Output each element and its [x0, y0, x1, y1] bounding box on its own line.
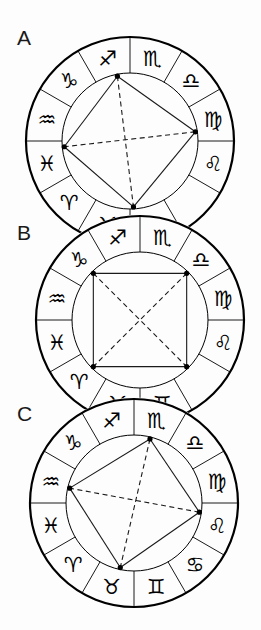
sector-divider [50, 268, 81, 286]
zodiac-glyph-libra: ♎ [191, 248, 210, 272]
aspect-line-solid [70, 488, 121, 567]
sector-divider [40, 175, 71, 193]
aspect-line-solid [117, 76, 195, 132]
outer-ring-circle [36, 216, 244, 424]
zodiac-glyph-scorpio: ♏ [147, 409, 166, 433]
aspect-line-dashed [70, 488, 200, 512]
panel-label-b: B [17, 222, 31, 243]
zodiac-glyph-libra: ♎ [185, 431, 204, 455]
aspect-line-dashed [93, 273, 186, 366]
inner-circle [62, 73, 198, 209]
aspect-vertex-point-left [67, 486, 72, 491]
zodiac-glyph-capricorn: ♑ [70, 248, 89, 272]
zodiac-wheel-c: ♍♎♏♐♑♒♓♈♉♊♋♌ [0, 0, 261, 630]
zodiac-glyph-aries: ♈ [60, 191, 79, 215]
zodiac-glyph-virgo: ♍ [204, 108, 223, 132]
zodiac-glyph-aquarius: ♒ [38, 108, 57, 132]
sector-divider [44, 451, 75, 469]
inner-circle [72, 252, 208, 388]
sector-divider [189, 89, 220, 107]
wheel-group-b: ♍♎♏♐♑♒♓♈♉♊♌ [35, 215, 246, 426]
wheel-backing-b [35, 215, 246, 426]
aspect-vertex-point-bottom [131, 204, 136, 209]
sector-divider [40, 89, 71, 107]
zodiac-glyph-pisces: ♓ [38, 152, 57, 176]
sector-divider [174, 379, 192, 410]
sector-divider [193, 451, 224, 469]
sector-divider [82, 562, 100, 593]
aspect-line-solid [64, 76, 117, 147]
zodiac-glyph-cancer: ♋ [185, 553, 204, 577]
aspect-line-dashed [117, 76, 133, 207]
sector-divider [78, 200, 96, 231]
zodiac-glyph-aquarius: ♒ [42, 470, 61, 494]
sector-divider [78, 51, 96, 82]
zodiac-wheel-b: ♍♎♏♐♑♒♓♈♉♊♌ [0, 0, 261, 630]
aspect-line-solid [70, 439, 150, 488]
inner-circle [66, 435, 202, 571]
zodiac-glyph-capricorn: ♑ [60, 69, 79, 93]
wheel-group-a: ♍♎♏♐♑♒♓♈♉♌ [25, 36, 236, 247]
aspect-line-solid [133, 132, 195, 207]
aspect-line-dashed [120, 439, 150, 568]
zodiac-glyph-gemini: ♊ [147, 575, 166, 599]
aspect-vertex-point-bottom-left [91, 364, 96, 369]
sector-divider [82, 413, 100, 444]
zodiac-glyph-aquarius: ♒ [48, 287, 67, 311]
aspect-line-solid [150, 439, 199, 512]
aspect-vertex-point-bottom-right [184, 364, 189, 369]
outer-ring-circle [26, 37, 234, 245]
sector-divider [164, 51, 182, 82]
zodiac-glyph-taurus: ♉ [102, 575, 121, 599]
zodiac-glyph-virgo: ♍ [208, 470, 227, 494]
sector-divider [193, 537, 224, 555]
zodiac-glyph-taurus: ♉ [98, 213, 117, 237]
aspect-vertex-point-top [115, 74, 120, 79]
zodiac-wheel-a: ♍♎♏♐♑♒♓♈♉♌ [0, 0, 261, 630]
zodiac-glyph-pisces: ♓ [48, 331, 67, 355]
aspect-vertex-point-top [147, 436, 152, 441]
panel-label-c: C [17, 403, 32, 424]
aspect-vertex-point-bottom [118, 565, 123, 570]
zodiac-glyph-scorpio: ♏ [153, 226, 172, 250]
zodiac-glyph-libra: ♎ [181, 69, 200, 93]
wheel-group-c: ♍♎♏♐♑♒♓♈♉♊♋♌ [29, 398, 240, 609]
zodiac-glyph-leo: ♌ [204, 152, 223, 176]
zodiac-glyph-pisces: ♓ [42, 514, 61, 538]
zodiac-glyph-capricorn: ♑ [64, 431, 83, 455]
zodiac-glyph-sagittarius: ♐ [102, 409, 121, 433]
sector-divider [189, 175, 220, 193]
sector-divider [168, 413, 186, 444]
sector-divider [174, 230, 192, 261]
zodiac-glyph-taurus: ♉ [108, 392, 127, 416]
sector-divider [44, 537, 75, 555]
aspect-vertex-point-top-right [184, 271, 189, 276]
zodiac-glyph-sagittarius: ♐ [98, 47, 117, 71]
zodiac-glyph-aries: ♈ [64, 553, 83, 577]
sector-divider [164, 200, 182, 231]
zodiac-glyph-scorpio: ♏ [143, 47, 162, 71]
aspect-line-dashed [93, 273, 186, 366]
aspect-line-solid [120, 512, 199, 567]
wheel-backing-a [25, 36, 236, 247]
outer-ring-circle [30, 399, 238, 607]
zodiac-glyph-leo: ♌ [208, 514, 227, 538]
sector-divider [88, 379, 106, 410]
zodiac-glyph-aries: ♈ [70, 370, 89, 394]
aspect-vertex-point-right [197, 510, 202, 515]
aspect-line-solid [64, 147, 133, 207]
sector-divider [199, 268, 230, 286]
zodiac-glyph-virgo: ♍ [214, 287, 233, 311]
aspect-vertex-point-left [62, 144, 67, 149]
sector-divider [168, 562, 186, 593]
zodiac-glyph-leo: ♌ [214, 331, 233, 355]
aspect-line-dashed [64, 132, 195, 147]
sector-divider [88, 230, 106, 261]
aspect-vertex-point-right [193, 129, 198, 134]
sector-divider [50, 354, 81, 372]
panel-label-a: A [17, 27, 31, 48]
zodiac-glyph-sagittarius: ♐ [108, 226, 127, 250]
aspect-vertex-point-top-left [91, 271, 96, 276]
zodiac-glyph-gemini: ♊ [153, 392, 172, 416]
sector-divider [199, 354, 230, 372]
